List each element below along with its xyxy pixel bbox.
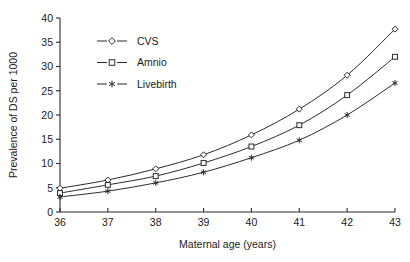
data-point: [392, 80, 397, 86]
y-tick-label: 5: [47, 182, 53, 194]
x-tick-label: 43: [389, 216, 401, 228]
x-tick-label: 37: [102, 216, 114, 228]
x-tick-label: 40: [246, 216, 258, 228]
y-tick-label: 10: [41, 157, 53, 169]
legend-label: CVS: [137, 35, 159, 47]
line-chart: 05101520253035403637383940414243 CVSAmni…: [0, 0, 410, 262]
data-point: [296, 106, 302, 112]
legend-marker-square: [109, 60, 115, 66]
x-tick-label: 36: [54, 216, 66, 228]
legend-label: Amnio: [137, 56, 167, 68]
data-point: [153, 166, 159, 172]
chart-legend: CVSAmnioLivebirth: [97, 35, 177, 90]
data-point: [297, 123, 302, 128]
y-tick-label: 25: [41, 85, 53, 97]
data-point: [248, 132, 254, 138]
y-tick-label: 20: [41, 109, 53, 121]
y-axis-title: Prevalence of DS per 1000: [7, 52, 19, 178]
x-tick-label: 39: [198, 216, 210, 228]
data-point: [201, 161, 206, 166]
data-point: [105, 182, 110, 187]
series-cvs: [57, 26, 398, 191]
chart-container: 05101520253035403637383940414243 CVSAmni…: [0, 0, 410, 262]
data-point: [153, 174, 158, 179]
data-point: [201, 152, 207, 158]
data-point: [345, 112, 350, 118]
x-axis-title: Maternal age (years): [179, 238, 276, 250]
x-tick-label: 42: [341, 216, 353, 228]
legend-marker-diamond: [109, 38, 116, 45]
data-point: [249, 144, 254, 149]
data-point: [393, 54, 398, 59]
series-line: [60, 29, 395, 188]
legend-label: Livebirth: [137, 78, 177, 90]
data-series: [57, 26, 398, 200]
legend-marker-star: [109, 81, 115, 88]
data-point: [297, 137, 302, 143]
legend-item-amnio: Amnio: [97, 56, 167, 68]
x-tick-label: 41: [293, 216, 305, 228]
x-tick-label: 38: [150, 216, 162, 228]
y-tick-label: 30: [41, 60, 53, 72]
y-tick-label: 0: [47, 206, 53, 218]
y-tick-label: 15: [41, 133, 53, 145]
data-point: [345, 93, 350, 98]
legend-item-cvs: CVS: [97, 35, 159, 47]
data-point: [249, 155, 254, 161]
y-tick-label: 40: [41, 12, 53, 24]
axis-tick-labels: 05101520253035403637383940414243: [41, 12, 401, 228]
y-tick-label: 35: [41, 36, 53, 48]
legend-item-livebirth: Livebirth: [97, 78, 177, 90]
